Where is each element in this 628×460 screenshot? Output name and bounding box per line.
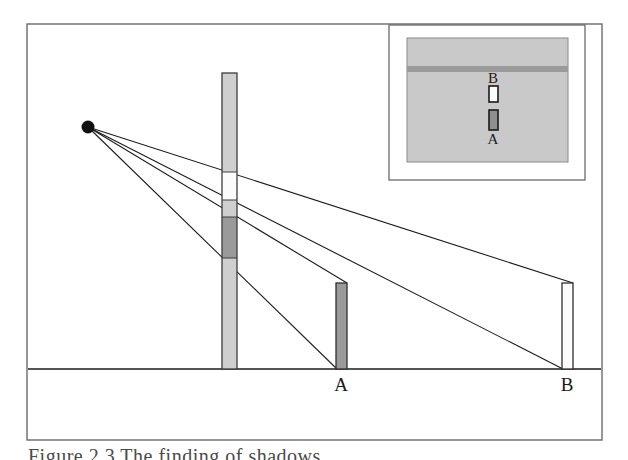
segment-lower-light — [222, 258, 237, 369]
figure-caption: Figure 2.3 The finding of shadows — [28, 444, 608, 460]
inset-patch-b — [489, 86, 498, 102]
shadow-bar-a-label: A — [334, 374, 348, 395]
inset-patch-b-label: B — [488, 70, 498, 86]
inset-patch-a-label: A — [488, 131, 499, 147]
figure-root: AB BA Figure 2.3 The finding of shadows — [0, 0, 628, 460]
light-source-point — [82, 121, 95, 134]
inset-patch-a — [489, 110, 498, 130]
shadow-bar-a — [336, 283, 347, 369]
segment-white-band — [222, 172, 237, 200]
shadow-bar-b-label: B — [561, 374, 574, 395]
inset-panel: BA — [389, 25, 585, 180]
segment-upper-light — [222, 73, 237, 172]
central-occluder-bar — [222, 73, 237, 369]
segment-mid-light — [222, 200, 237, 217]
shadow-bar-b — [562, 283, 573, 369]
segment-dark-band — [222, 217, 237, 258]
ray-diagram-canvas: AB BA — [0, 0, 628, 460]
